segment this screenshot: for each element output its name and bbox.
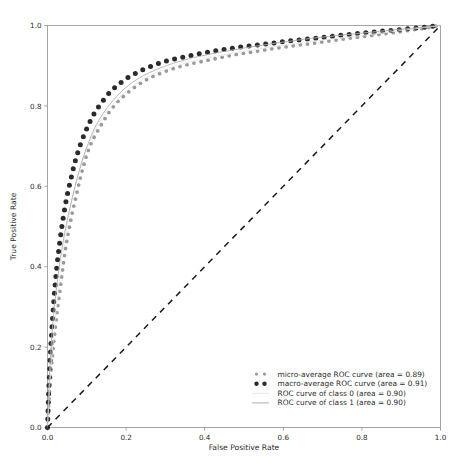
series-marker [50, 316, 55, 321]
series-marker [75, 190, 79, 194]
series-marker [101, 98, 106, 103]
legend-marker-dot [262, 382, 266, 386]
legend-marker-dot [254, 382, 258, 386]
series-marker [96, 129, 100, 133]
series-marker [62, 207, 67, 212]
series-marker [67, 225, 71, 229]
x-tick-label: 0.6 [278, 433, 290, 442]
series-marker [64, 247, 68, 251]
series-marker [148, 64, 153, 69]
y-tick-label: 0.8 [30, 102, 42, 111]
series-marker [206, 58, 210, 62]
x-tick-label: 0.8 [356, 433, 368, 442]
series-marker [78, 176, 82, 180]
series-marker [67, 183, 72, 188]
series-marker [158, 72, 162, 76]
series-marker [71, 166, 76, 171]
series-marker [164, 59, 169, 64]
legend-label: micro-average ROC curve (area = 0.89) [278, 370, 425, 379]
series-marker [125, 75, 130, 80]
series-marker [140, 67, 145, 72]
series-marker [65, 191, 70, 196]
series-marker [77, 183, 81, 187]
series-marker [63, 199, 68, 204]
y-tick-label: 0.2 [30, 343, 41, 352]
series-marker [78, 142, 83, 147]
series-marker [249, 50, 253, 54]
series-marker [69, 218, 73, 222]
legend-entry: ROC curve of class 1 (area = 0.90) [252, 398, 406, 407]
series-marker [99, 123, 103, 127]
legend-entry: macro-average ROC curve (area = 0.91) [254, 379, 427, 388]
x-tick-label: 0.0 [42, 433, 54, 442]
y-tick-label: 0.6 [30, 182, 42, 191]
series-marker [188, 53, 193, 58]
legend-marker-dot [263, 373, 266, 376]
series-marker [180, 55, 185, 60]
series-marker [133, 71, 138, 76]
series-marker [96, 104, 101, 109]
series-marker [56, 249, 61, 254]
x-tick-label: 0.2 [120, 433, 131, 442]
series-marker [57, 241, 62, 246]
series-marker [213, 57, 217, 61]
chance-diagonal-line [48, 26, 441, 428]
series-marker [103, 117, 107, 121]
legend-label: ROC curve of class 1 (area = 0.90) [278, 398, 406, 407]
series-marker [119, 80, 124, 85]
series-marker [156, 61, 161, 66]
series-marker [88, 119, 93, 124]
series-marker [80, 169, 84, 173]
series-marker [65, 239, 69, 243]
series-marker [106, 91, 111, 96]
series-marker [69, 175, 74, 180]
series-marker [63, 254, 67, 258]
series-marker [227, 54, 231, 58]
series-marker [61, 216, 66, 221]
series-marker [51, 308, 56, 313]
legend-marker-dot [255, 373, 258, 376]
roc-curve-figure: 0.00.20.40.60.81.00.00.20.40.60.81.0Fals… [0, 0, 466, 465]
series-marker [91, 112, 96, 117]
series-marker [306, 42, 310, 46]
series-marker [59, 224, 64, 229]
series-marker [73, 158, 78, 163]
plot-canvas: 0.00.20.40.60.81.00.00.20.40.60.81.0Fals… [0, 0, 466, 465]
series-marker [70, 211, 74, 215]
series-marker [84, 127, 89, 132]
x-tick-label: 0.4 [199, 433, 211, 442]
legend-label: ROC curve of class 0 (area = 0.90) [278, 389, 406, 398]
legend-entry: ROC curve of class 0 (area = 0.90) [252, 389, 406, 398]
series-marker [199, 60, 203, 64]
series-marker [66, 232, 70, 236]
series-marker [75, 150, 80, 155]
series-marker [263, 41, 268, 46]
series-marker [82, 162, 86, 166]
series-marker [172, 57, 177, 62]
series-marker [55, 257, 60, 262]
series-marker [220, 55, 224, 59]
series-marker [112, 85, 117, 90]
x-axis-title: False Positive Rate [209, 443, 280, 452]
y-tick-label: 0.4 [30, 262, 42, 271]
legend-label: macro-average ROC curve (area = 0.91) [278, 379, 428, 388]
series-marker [72, 204, 76, 208]
y-tick-label: 1.0 [30, 21, 42, 30]
series-marker [74, 197, 78, 201]
y-axis-title: True Positive Rate [9, 192, 18, 261]
legend-entry: micro-average ROC curve (area = 0.89) [255, 370, 425, 379]
y-tick-label: 0.0 [30, 423, 42, 432]
x-tick-label: 1.0 [435, 433, 447, 442]
series-marker [81, 134, 86, 139]
series-marker [58, 232, 63, 237]
